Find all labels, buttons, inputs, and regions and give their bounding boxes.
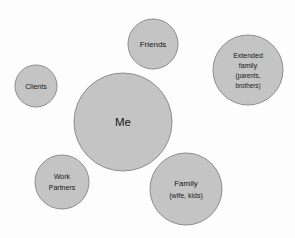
bubble-friends-label: Friends — [140, 40, 167, 49]
bubble-family-label-line1: Family — [174, 179, 198, 188]
bubble-friends[interactable]: Friends — [128, 19, 178, 69]
diagram-canvas: Friends Extended family (parents, brothe… — [0, 0, 295, 238]
bubble-work-partners-label-line2: Partners — [49, 184, 76, 191]
bubble-extended-family-label-line3: (parents, — [236, 72, 261, 80]
bubble-family[interactable]: Family (wife, kids) — [150, 153, 222, 225]
bubble-extended-family[interactable]: Extended family (parents, brothers) — [213, 35, 283, 105]
bubble-extended-family-circle[interactable] — [213, 35, 283, 105]
bubble-extended-family-label-line1: Extended — [233, 52, 263, 59]
bubble-clients[interactable]: Clients — [15, 65, 57, 107]
bubble-diagram: Friends Extended family (parents, brothe… — [0, 0, 295, 238]
bubble-clients-label: Clients — [25, 83, 47, 90]
bubble-me[interactable]: Me — [74, 73, 172, 171]
bubble-work-partners-label-line1: Work — [54, 173, 71, 180]
bubble-family-circle[interactable] — [150, 153, 222, 225]
bubble-work-partners[interactable]: Work Partners — [35, 155, 89, 209]
bubble-extended-family-label-line2: family — [239, 62, 258, 70]
bubble-work-partners-circle[interactable] — [35, 155, 89, 209]
bubble-family-label-line2: (wife, kids) — [169, 192, 202, 200]
bubble-extended-family-label-line4: brothers) — [235, 82, 260, 90]
bubble-me-label: Me — [115, 116, 131, 128]
